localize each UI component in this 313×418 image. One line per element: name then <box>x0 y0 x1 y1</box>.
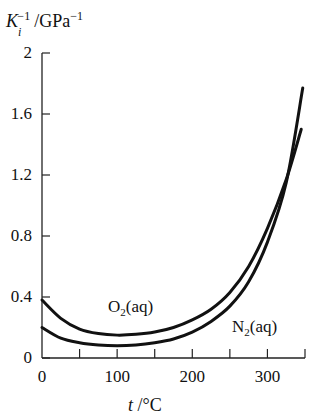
chart: Ki−1/GPa−1 00.40.81.21.62 0100200300 t /… <box>0 0 313 418</box>
y-label-subscript: i <box>18 25 21 39</box>
plot-area <box>0 0 313 418</box>
o2-label-main: O <box>108 297 120 316</box>
y-tick-label: 0.8 <box>2 227 32 244</box>
y-tick-label: 0.4 <box>2 288 32 305</box>
series-line-n2 <box>42 88 303 346</box>
x-tick-label: 200 <box>167 368 217 385</box>
series-label-o2: O2(aq) <box>108 298 153 318</box>
y-tick-label: 2 <box>2 44 32 61</box>
series-line-o2 <box>42 129 301 335</box>
x-label-unit: /°C <box>133 395 162 415</box>
y-axis-label: Ki−1/GPa−1 <box>6 10 83 34</box>
x-axis-label: t /°C <box>128 396 162 414</box>
series-label-n2: N2(aq) <box>232 318 277 338</box>
y-tick-label: 0 <box>2 349 32 366</box>
x-tick-label: 300 <box>242 368 292 385</box>
x-tick-label: 0 <box>17 368 67 385</box>
y-label-unit-superscript: −1 <box>70 9 83 23</box>
n2-label-main: N <box>232 317 244 336</box>
n2-label-suffix: (aq) <box>250 317 277 336</box>
y-tick-label: 1.6 <box>2 105 32 122</box>
y-label-superscript: −1 <box>17 9 30 23</box>
y-tick-label: 1.2 <box>2 166 32 183</box>
y-label-unit: /GPa <box>34 11 70 31</box>
x-tick-label: 100 <box>92 368 142 385</box>
o2-label-suffix: (aq) <box>126 297 153 316</box>
